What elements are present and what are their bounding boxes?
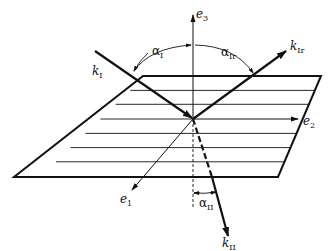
label-alpha-incident: αI: [152, 44, 163, 60]
plane-hatching: [56, 90, 315, 161]
label-e3: e3: [196, 7, 208, 23]
label-alpha-transmitted: αII: [199, 196, 213, 212]
label-e2: e2: [303, 114, 315, 130]
label-k-incident: kI: [92, 64, 102, 80]
diagram-canvas: e3 e2 e1 kI kIr kII αI αIr αII: [0, 0, 331, 251]
interface-plane: [14, 76, 321, 177]
label-k-reflected: kIr: [290, 39, 304, 55]
label-alpha-reflected: αIr: [221, 45, 236, 61]
axis-e1: [132, 119, 193, 190]
label-k-transmitted: kII: [222, 236, 236, 251]
label-e1: e1: [120, 192, 132, 208]
vector-k-reflected: [193, 51, 286, 119]
